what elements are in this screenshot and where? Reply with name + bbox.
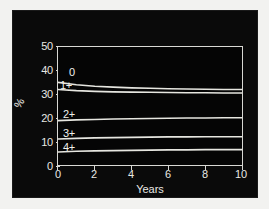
x-tick-label: 0 [55, 169, 61, 180]
series-label-4plus: 4+ [63, 142, 75, 153]
x-axis-tick-labels: 0 2 4 6 8 10 [57, 169, 243, 183]
series-lines [58, 47, 242, 165]
series-label-1plus: 1+ [60, 80, 72, 91]
y-axis-tick-labels: 50 40 30 20 10 0 [27, 46, 53, 166]
x-tick-label: 4 [128, 169, 134, 180]
y-tick-label: 10 [41, 137, 53, 148]
series-line-2plus [58, 118, 242, 121]
y-tick-label: 0 [47, 161, 53, 172]
x-tick-label: 2 [91, 169, 97, 180]
x-tick-label: 6 [165, 169, 171, 180]
series-line-4plus [58, 150, 242, 152]
y-tick-label: 30 [41, 89, 53, 100]
series-label-2plus: 2+ [63, 109, 75, 120]
y-tick-label: 40 [41, 65, 53, 76]
y-axis-title: % [11, 96, 26, 110]
series-label-3plus: 3+ [63, 128, 75, 139]
series-line-0 [58, 82, 242, 89]
chart-screenshot: 50 40 30 20 10 0 % 0 1+ 2+ 3+ 4+ [0, 0, 269, 209]
plot-area: 0 1+ 2+ 3+ 4+ [57, 46, 243, 166]
y-tick-label: 50 [41, 41, 53, 52]
series-label-0: 0 [69, 67, 75, 78]
x-axis-title: Years [57, 183, 243, 195]
x-tick-label: 10 [235, 169, 247, 180]
x-tick-label: 8 [202, 169, 208, 180]
figure-panel: 50 40 30 20 10 0 % 0 1+ 2+ 3+ 4+ [13, 11, 257, 197]
y-tick-label: 20 [41, 113, 53, 124]
series-line-3plus [58, 137, 242, 139]
